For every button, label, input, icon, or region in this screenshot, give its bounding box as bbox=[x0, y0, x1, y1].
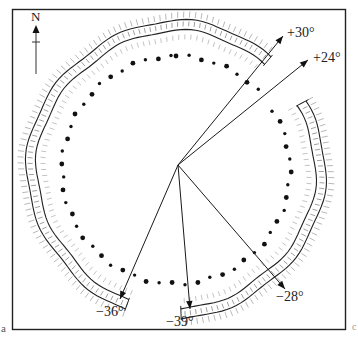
figure-frame bbox=[13, 10, 346, 330]
alignment-line bbox=[120, 165, 178, 299]
diagram-canvas bbox=[0, 0, 358, 340]
azimuth-label-minus39: −39° bbox=[166, 315, 194, 329]
arrowhead-icon bbox=[275, 36, 283, 44]
azimuth-label-plus30: +30° bbox=[287, 26, 315, 40]
henge-plan-diagram: N a c +30° +24° −36° −39° −28° bbox=[0, 0, 358, 340]
alignment-line bbox=[178, 36, 283, 165]
alignment-line bbox=[178, 60, 308, 165]
alignment-line bbox=[178, 165, 190, 309]
azimuth-label-minus28: −28° bbox=[276, 290, 304, 304]
alignment-line bbox=[178, 165, 285, 289]
corner-mark: c bbox=[352, 322, 356, 332]
azimuth-label-plus24: +24° bbox=[313, 51, 341, 65]
azimuth-label-minus36: −36° bbox=[96, 305, 124, 319]
panel-letter: a bbox=[1, 323, 6, 334]
arrowhead-icon bbox=[300, 60, 308, 68]
north-arrow-icon bbox=[32, 25, 40, 74]
north-label: N bbox=[31, 10, 40, 23]
posthole-ring bbox=[59, 54, 293, 287]
alignment-arrows bbox=[120, 36, 308, 309]
